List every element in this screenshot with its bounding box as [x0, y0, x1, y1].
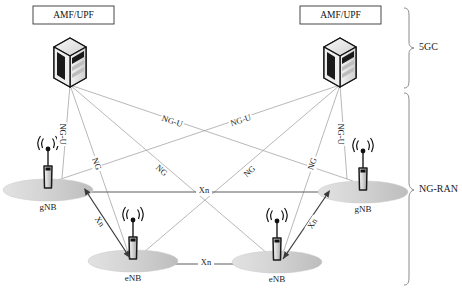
amf-upf-right-label: AMF/UPF: [320, 10, 361, 20]
enb-left-label: eNB: [125, 273, 142, 283]
label-xn-enb-enb: Xn: [201, 257, 212, 267]
enb-right-label: eNB: [269, 274, 286, 284]
gnb-left-label: gNB: [39, 202, 56, 212]
brace-5gc-label: 5GC: [419, 41, 438, 52]
server-rack-icon: [324, 38, 356, 87]
amf-upf-left-label: AMF/UPF: [53, 10, 94, 20]
brace-ng-ran-label: NG-RAN: [419, 183, 458, 194]
server-rack-icon: [54, 38, 86, 87]
label-xn-gnb-gnb: Xn: [199, 185, 210, 195]
label-ngu-right-vertical: NG-U: [336, 123, 346, 144]
gnb-right-label: gNB: [354, 204, 371, 214]
label-ngu-left-vertical: NG-U: [58, 123, 68, 144]
network-architecture-diagram: gNB gNB eNB: [0, 0, 462, 294]
